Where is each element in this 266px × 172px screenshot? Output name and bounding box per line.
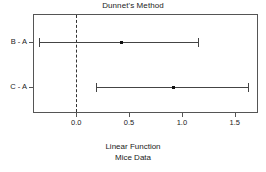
point-estimate-marker: [172, 86, 175, 89]
x-axis-tick: [182, 112, 183, 117]
x-axis-tick: [129, 112, 130, 117]
point-estimate-marker: [120, 41, 123, 44]
interval-line: [39, 42, 197, 43]
y-axis-label-c-minus-a: C - A: [10, 83, 27, 91]
interval-lower-cap: [39, 38, 40, 47]
x-axis-tick-label: 0.5: [124, 118, 134, 127]
interval-upper-cap: [198, 38, 199, 47]
interval-lower-cap: [96, 83, 97, 92]
x-axis-tick: [76, 112, 77, 117]
x-axis-tick: [235, 112, 236, 117]
x-axis-tick-label: 0.0: [71, 118, 81, 127]
y-axis-tick: [29, 87, 34, 88]
x-axis-tick-label: 1.5: [229, 118, 239, 127]
x-axis-caption: Linear Function Mice Data: [0, 141, 266, 163]
chart-title: Dunnet's Method: [0, 1, 266, 11]
chart-figure: Dunnet's Method B - A C - A 0.00.51.01.5: [0, 0, 266, 172]
y-axis-label-b-minus-a: B - A: [11, 38, 27, 46]
x-axis-label-primary: Linear Function: [0, 141, 266, 152]
x-axis-label-secondary: Mice Data: [0, 152, 266, 163]
y-axis-tick: [29, 42, 34, 43]
x-axis-tick-label: 1.0: [177, 118, 187, 127]
interval-upper-cap: [248, 83, 249, 92]
plot-area: B - A C - A 0.00.51.01.5: [33, 14, 258, 113]
zero-reference-line: [76, 15, 77, 112]
